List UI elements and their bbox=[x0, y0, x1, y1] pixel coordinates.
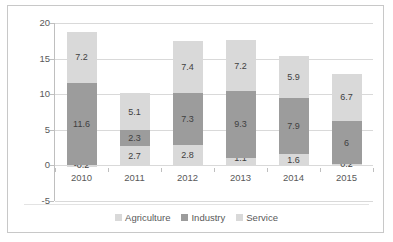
legend-swatch-icon bbox=[181, 214, 188, 221]
bar-value-label: 11.6 bbox=[67, 119, 97, 129]
bar-segment-industry[interactable]: 7.3 bbox=[173, 93, 203, 145]
y-axis-tick-label: 5 bbox=[16, 125, 50, 135]
y-axis-tick-mark bbox=[50, 23, 54, 24]
bar-value-label: 7.2 bbox=[67, 52, 97, 62]
x-axis-tick-label: 2011 bbox=[110, 172, 160, 183]
plot-area: -0.211.67.22.72.35.12.87.37.41.19.37.21.… bbox=[55, 23, 373, 168]
x-axis-tick-label: 2014 bbox=[269, 172, 319, 183]
bar-segment-service[interactable]: 7.2 bbox=[226, 40, 256, 91]
legend-swatch-icon bbox=[236, 214, 243, 221]
legend-item-agriculture[interactable]: Agriculture bbox=[115, 212, 170, 223]
y-axis-tick-label: 10 bbox=[16, 89, 50, 99]
bar-value-label: 1.6 bbox=[279, 155, 309, 165]
y-axis-tick-label: 15 bbox=[16, 54, 50, 64]
x-axis-tick-label: 2013 bbox=[216, 172, 266, 183]
bar-segment-agriculture[interactable]: 0.2 bbox=[332, 164, 362, 165]
bar-value-label: 2.3 bbox=[120, 133, 150, 143]
legend-item-industry[interactable]: Industry bbox=[181, 212, 225, 223]
gridline bbox=[55, 201, 373, 202]
x-axis-tick-mark bbox=[373, 168, 374, 172]
x-axis-tick-label: 2010 bbox=[57, 172, 107, 183]
bar-segment-agriculture[interactable]: -0.2 bbox=[67, 165, 97, 166]
bar-segment-agriculture[interactable]: 1.6 bbox=[279, 154, 309, 165]
y-axis-tick: 5 bbox=[12, 125, 50, 135]
bar-segment-industry[interactable]: 2.3 bbox=[120, 130, 150, 146]
y-axis-tick: 15 bbox=[12, 54, 50, 64]
bar-value-label: 7.9 bbox=[279, 121, 309, 131]
bar-value-label: 2.7 bbox=[120, 151, 150, 161]
legend-item-service[interactable]: Service bbox=[236, 212, 278, 223]
y-axis-tick: 20 bbox=[12, 18, 50, 28]
bar-segment-agriculture[interactable]: 1.1 bbox=[226, 158, 256, 166]
bar-segment-industry[interactable]: 11.6 bbox=[67, 83, 97, 166]
chart-legend: AgricultureIndustryService bbox=[8, 212, 385, 223]
bar-segment-agriculture[interactable]: 2.7 bbox=[120, 146, 150, 165]
bar-value-label: 2.8 bbox=[173, 150, 203, 160]
bar-value-label: 6.7 bbox=[332, 92, 362, 102]
bar-value-label: 7.3 bbox=[173, 114, 203, 124]
bar-segment-industry[interactable]: 7.9 bbox=[279, 98, 309, 154]
x-axis-tick-label: 2015 bbox=[322, 172, 372, 183]
y-axis-tick-mark bbox=[50, 165, 54, 166]
bar-value-label: 6 bbox=[332, 138, 362, 148]
legend-label: Agriculture bbox=[125, 212, 170, 223]
legend-divider bbox=[24, 204, 369, 205]
x-axis-tick-label: 2012 bbox=[163, 172, 213, 183]
bar-segment-service[interactable]: 5.1 bbox=[120, 93, 150, 129]
y-axis-tick-mark bbox=[50, 59, 54, 60]
bar-value-label: 7.2 bbox=[226, 61, 256, 71]
legend-label: Service bbox=[246, 212, 278, 223]
bar-value-label: 9.3 bbox=[226, 119, 256, 129]
bar-segment-agriculture[interactable]: 2.8 bbox=[173, 145, 203, 165]
legend-label: Industry bbox=[191, 212, 225, 223]
bar-segment-service[interactable]: 5.9 bbox=[279, 56, 309, 98]
bar-segment-service[interactable]: 7.2 bbox=[67, 32, 97, 83]
bar-value-label: 5.1 bbox=[120, 107, 150, 117]
y-axis-tick-label: 20 bbox=[16, 18, 50, 28]
bar-segment-industry[interactable]: 9.3 bbox=[226, 91, 256, 157]
y-axis-tick-label: 0 bbox=[16, 160, 50, 170]
y-axis-tick: 0 bbox=[12, 160, 50, 170]
chart-frame: 20151050-5 201020112012201320142015 -0.2… bbox=[7, 5, 384, 233]
y-axis-tick-mark bbox=[50, 201, 54, 202]
bar-segment-industry[interactable]: 6 bbox=[332, 121, 362, 164]
bar-value-label: 5.9 bbox=[279, 72, 309, 82]
y-axis-tick-mark bbox=[50, 94, 54, 95]
bar-segment-service[interactable]: 7.4 bbox=[173, 41, 203, 94]
y-axis-tick: 10 bbox=[12, 89, 50, 99]
bar-segment-service[interactable]: 6.7 bbox=[332, 74, 362, 122]
legend-swatch-icon bbox=[115, 214, 122, 221]
y-axis-tick-mark bbox=[50, 130, 54, 131]
bar-value-label: 7.4 bbox=[173, 62, 203, 72]
